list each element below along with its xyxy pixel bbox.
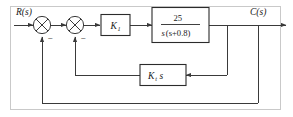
plant-transfer-function-block: 25 s (s+0.8) [152,8,209,43]
summing-junction-inner [66,16,83,33]
gain-block-k1-subscript: 1 [118,25,121,32]
feedback-block-s-label: s [160,71,164,81]
feedback-block-k-subscript: t [155,75,157,82]
block-diagram-canvas: K 1 25 s (s+0.8) K t s R(s) C(s) − − [0,0,293,117]
plant-denominator-factor: (s+0.8) [166,28,191,38]
feedback-block-k-label: K [147,71,155,81]
block-diagram-svg: K 1 25 s (s+0.8) K t s R(s) C(s) − − [0,0,293,117]
plant-numerator-label: 25 [174,13,183,23]
input-signal-label: R(s) [15,7,32,18]
gain-block-k1-label: K [110,21,118,31]
summing-junction-outer [33,16,50,33]
outer-sum-sign-label: − [48,33,53,43]
inner-sum-sign-label: − [81,33,86,43]
output-signal-label: C(s) [250,7,266,18]
gain-block-k1: K 1 [101,15,130,36]
feedback-block-kts: K t s [140,65,186,86]
